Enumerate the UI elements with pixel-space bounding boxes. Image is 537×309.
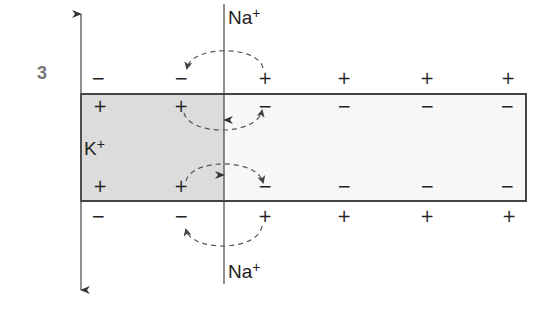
charge-sign: − xyxy=(173,208,189,225)
na-bottom-charge: + xyxy=(252,259,260,275)
charge-sign: + xyxy=(419,208,435,225)
charge-sign: + xyxy=(501,208,517,225)
charge-sign: + xyxy=(419,70,435,87)
k-charge: + xyxy=(97,136,105,152)
charge-sign: + xyxy=(92,178,108,195)
na-bottom-base: Na xyxy=(228,261,252,282)
charge-sign: − xyxy=(499,178,515,195)
charge-sign: − xyxy=(419,178,435,195)
na-top-charge: + xyxy=(252,5,260,21)
step-number: 3 xyxy=(37,64,47,82)
charge-sign: + xyxy=(92,98,108,115)
charge-sign: − xyxy=(499,98,515,115)
charge-sign: + xyxy=(336,70,352,87)
action-potential-diagram: 3 Na+ Na+ K+ − − + + + + + + − − − − + +… xyxy=(0,0,537,309)
charge-sign: + xyxy=(173,178,189,195)
charge-sign: − xyxy=(336,98,352,115)
charge-sign: − xyxy=(419,98,435,115)
k-base: K xyxy=(84,138,97,159)
charge-sign: − xyxy=(336,178,352,195)
charge-sign: − xyxy=(257,178,273,195)
diagram-graphics xyxy=(0,0,537,309)
charge-sign: − xyxy=(90,70,106,87)
k-ion-label: K+ xyxy=(84,139,105,158)
charge-sign: − xyxy=(173,70,189,87)
charge-sign: − xyxy=(257,98,273,115)
charge-sign: + xyxy=(173,98,189,115)
na-ion-label-bottom: Na+ xyxy=(228,262,260,281)
charge-sign: + xyxy=(336,208,352,225)
na-top-base: Na xyxy=(228,7,252,28)
charge-sign: + xyxy=(500,70,516,87)
na-ion-label-top: Na+ xyxy=(228,8,260,27)
charge-sign: + xyxy=(257,70,273,87)
charge-sign: + xyxy=(257,208,273,225)
local-current-arrow-outside-top xyxy=(187,51,263,68)
charge-sign: − xyxy=(90,208,106,225)
